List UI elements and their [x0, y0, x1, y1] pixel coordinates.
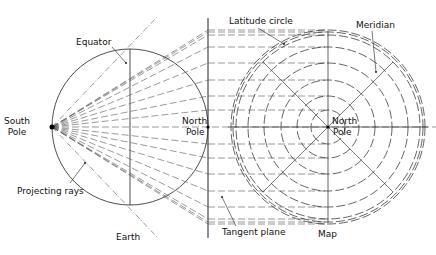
label-south-pole-2: Pole [0, 127, 34, 138]
label-latitude-circle: Latitude circle [229, 16, 293, 27]
south-pole-dot [50, 125, 55, 130]
extended-ray-top [52, 16, 158, 127]
label-north-pole-map-1: North [332, 116, 357, 127]
latitude-circle-leader-tip [283, 43, 285, 45]
meridian-leader-tip [375, 71, 377, 73]
tangent-plane-leader-tip [221, 196, 223, 198]
stereographic-projection-diagram: Equator South Pole North Pole Projecting… [0, 0, 436, 255]
label-north-pole-earth-1: North [182, 116, 207, 127]
tangent-plane-leader [222, 197, 236, 226]
label-equator: Equator [76, 37, 111, 48]
label-projecting-rays: Projecting rays [17, 186, 84, 197]
latitude-circle-leader [258, 28, 284, 44]
label-north-pole-map-2: Pole [333, 127, 352, 138]
label-tangent-plane: Tangent plane [222, 227, 286, 238]
meridian-leader [372, 31, 376, 72]
projecting-rays-leader [70, 163, 85, 183]
label-meridian: Meridian [356, 20, 395, 31]
label-north-pole-earth-2: Pole [186, 127, 205, 138]
label-south-pole-1: South [0, 116, 34, 127]
equator-leader-tip [125, 62, 127, 64]
label-map: Map [318, 229, 337, 240]
diagram-canvas [0, 0, 436, 255]
projecting-rays-leader-tip [84, 162, 86, 164]
extended-ray-bottom [52, 127, 158, 238]
north-pole-map-dot [326, 125, 329, 128]
label-earth: Earth [116, 232, 140, 243]
